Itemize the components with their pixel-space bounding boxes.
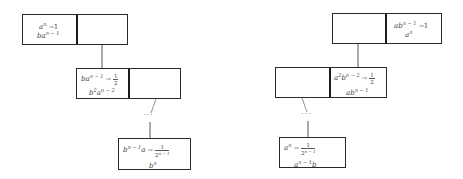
numerator: 1: [113, 73, 119, 80]
exp: n − 1: [298, 159, 312, 165]
left-middle-node-right-cell: [130, 69, 180, 98]
exp: n − 1: [127, 144, 141, 150]
exp: n − 1: [90, 73, 104, 79]
right-middle-node: a2bn − 2 → 12 abn − 1: [275, 67, 387, 98]
right-ellipsis: ···: [301, 109, 312, 118]
arrow-icon: →: [294, 144, 299, 151]
exp: n: [153, 160, 156, 166]
exp: n − 1: [46, 30, 60, 36]
exp: n: [409, 29, 412, 35]
right-bottom-expr-line1: an → 12n − 1: [284, 141, 315, 156]
right-middle-expr-line2: abn − 1: [346, 86, 368, 97]
right-middle-node-right-cell: a2bn − 2 → 12 abn − 1: [331, 68, 386, 97]
right-bottom-node: an → 12n − 1 an − 1b: [279, 137, 346, 168]
denominator: 2: [113, 80, 119, 86]
var-a: a: [141, 146, 145, 154]
right-top-node: abn − 1 →1 an: [332, 13, 442, 44]
exp: n − 2: [101, 87, 115, 93]
exp: n − 2: [346, 72, 360, 78]
value-one: 1: [424, 22, 428, 30]
left-middle-node-left-cell: ban − 1 → 12 b2an − 2: [77, 69, 129, 98]
left-top-node-right-cell: [78, 15, 127, 44]
left-bottom-expr-line1: bn − 1a → 12n − 1: [123, 143, 169, 158]
arrow-icon: →: [106, 75, 111, 82]
var-ab: ab: [394, 22, 403, 30]
right-middle-node-left-cell: [276, 68, 330, 97]
denominator: 2n − 1: [301, 149, 316, 156]
numerator: 1: [155, 144, 170, 151]
right-bottom-expr-line2: an − 1b: [294, 158, 316, 169]
exp: n − 1: [158, 151, 169, 156]
exp: n: [288, 142, 291, 148]
right-middle-expr-line1: a2bn − 2 → 12: [334, 71, 375, 85]
exp: n − 1: [304, 149, 315, 154]
left-middle-node: ban − 1 → 12 b2an − 2: [76, 68, 181, 99]
numerator: 1: [301, 142, 316, 149]
right-top-node-left-cell: [333, 14, 386, 43]
left-bottom-node: bn − 1a → 12n − 1 bn: [118, 138, 191, 170]
var-b: b: [312, 161, 316, 169]
fraction-half: 12: [113, 73, 119, 86]
left-ellipsis: ···: [143, 110, 154, 119]
fraction-half: 12: [369, 72, 375, 85]
fraction-power-of-two: 12n − 1: [155, 144, 170, 158]
right-top-node-right-cell: abn − 1 →1 an: [387, 14, 441, 43]
left-top-expr-line2: ban − 1: [37, 29, 59, 40]
exp: n: [43, 21, 46, 27]
var-ba: ba: [37, 32, 46, 40]
var-ba: ba: [81, 75, 90, 83]
left-top-node-left-cell: an →1 ban − 1: [23, 15, 77, 44]
left-bottom-expr-line2: bn: [149, 159, 157, 170]
arrow-icon: →: [362, 74, 367, 81]
exp: n − 1: [403, 20, 417, 26]
exp: n − 1: [355, 87, 369, 93]
left-top-node: an →1 ban − 1: [22, 14, 128, 45]
fraction-power-of-two: 12n − 1: [301, 142, 316, 156]
arrow-icon: →: [148, 146, 153, 153]
var-ab: ab: [346, 89, 355, 97]
left-middle-expr-line1: ban − 1 → 12: [81, 72, 118, 86]
right-top-expr-line2: an: [405, 28, 412, 39]
denominator: 2: [369, 79, 375, 85]
numerator: 1: [369, 72, 375, 79]
denominator: 2n − 1: [155, 151, 170, 158]
left-middle-expr-line2: b2an − 2: [89, 86, 115, 97]
